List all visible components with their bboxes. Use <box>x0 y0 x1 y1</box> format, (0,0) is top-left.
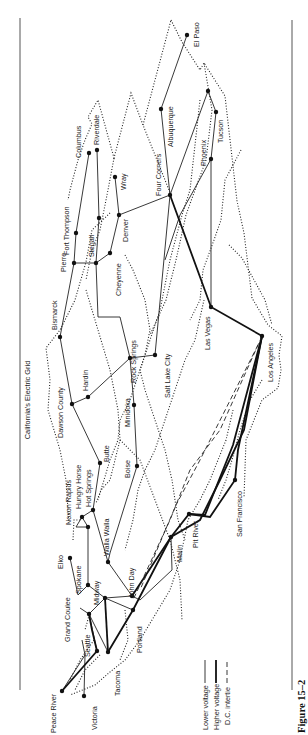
label-victoria: Victoria <box>90 706 99 730</box>
label-cheyenne: Cheyenne <box>114 263 123 296</box>
figure-caption: Figure 15–2 <box>296 680 307 733</box>
lower-voltage-lines <box>60 35 216 696</box>
dc-intertie-line <box>133 336 262 600</box>
label-stegall: Stegall <box>87 235 96 257</box>
label-walla-walla: Walla Walla <box>102 519 111 556</box>
city-nodes <box>58 33 264 698</box>
label-albuquerque: Albuquerque <box>166 106 175 147</box>
label-rock-springs: Rock Springs <box>129 340 138 383</box>
label-el-paso: El Paso <box>192 22 201 47</box>
label-wray: Wray <box>119 173 128 190</box>
label-spokane: Spokane <box>74 566 83 594</box>
label-hot-springs: Hot Springs <box>84 469 93 507</box>
label-peace-river: Peace River <box>49 693 58 733</box>
legend-higher-voltage-label: Higher voltage <box>212 684 221 730</box>
label-columbus: Columbus <box>74 125 83 158</box>
label-grand-coulee: Grand Coulee <box>63 597 72 642</box>
electric-grid-figure: California's Electric Grid <box>0 0 308 735</box>
label-seattle: Seattle <box>83 635 92 657</box>
label-malin: Malin <box>175 545 184 562</box>
label-hardin: Hardin <box>81 370 90 391</box>
label-riverdale: Riverdale <box>92 115 101 145</box>
label-elko: Elko <box>56 555 65 569</box>
label-boise: Boise <box>123 460 132 478</box>
label-pierre: Pierre <box>59 253 68 272</box>
label-dawson-county: Dawson County <box>56 387 65 438</box>
legend-dc-intertie-label: D.C. intertie <box>223 687 232 725</box>
legend-lower-voltage-label: Lower voltage <box>201 685 210 730</box>
label-tucson: Tucson <box>216 120 225 143</box>
figure-title: California's Electric Grid <box>23 361 32 440</box>
label-san-francisco: San Francisco <box>235 491 244 537</box>
label-denver: Denver <box>121 218 130 242</box>
label-noxon-rapids: Noxon Rapids <box>64 479 73 525</box>
higher-voltage-lines <box>62 195 262 691</box>
label-bismarck: Bismarck <box>50 300 59 330</box>
label-minidoka: Minidoka <box>123 398 132 427</box>
legend: Lower voltage Higher voltage D.C. intert… <box>201 660 232 730</box>
label-portland: Portland <box>135 626 144 653</box>
label-four-corners: Four Corners <box>154 153 163 196</box>
label-butte: Butte <box>102 445 111 462</box>
label-las-vegas: Las Vegas <box>203 316 212 350</box>
label-hungry-horse: Hungry Horse <box>74 465 83 509</box>
label-tacoma: Tacoma <box>113 671 122 696</box>
label-phoenix: Phoenix <box>199 140 208 166</box>
label-salt-lake-city: Salt Lake City <box>163 353 172 398</box>
label-los-angeles: Los Angeles <box>266 342 275 382</box>
label-pit-river: Pit River <box>191 520 200 548</box>
label-john-day: John Day <box>127 567 136 598</box>
label-fort-thompson: Fort Thompson <box>62 206 71 255</box>
label-midway: Midway <box>92 580 101 605</box>
